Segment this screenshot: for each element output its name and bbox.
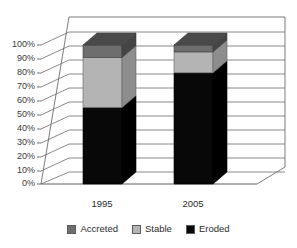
segment-front-face xyxy=(174,73,213,184)
y-tick-label: 60% xyxy=(17,95,35,105)
legend-swatch-icon xyxy=(67,225,76,234)
gridline-30 xyxy=(41,130,285,143)
stacked-column-chart: 100% 90% 80% 70% 60% 50% 40% 30% 20% 10%… xyxy=(0,0,297,248)
gridline-50 xyxy=(41,102,285,115)
back-wall-top-edge xyxy=(41,17,285,184)
y-tick-label: 80% xyxy=(17,67,35,77)
legend-item-stable[interactable]: Stable xyxy=(132,224,172,234)
y-tick-label: 90% xyxy=(17,53,35,63)
x-axis-labels: 1995 2005 xyxy=(91,198,203,209)
segment-front-face xyxy=(83,45,122,58)
y-tick-label: 40% xyxy=(17,123,35,133)
y-axis-labels: 100% 90% 80% 70% 60% 50% 40% 30% 20% 10%… xyxy=(12,39,35,188)
legend-swatch-icon xyxy=(186,225,195,234)
bar-group-1995 xyxy=(83,33,136,184)
bar-segment-eroded[interactable] xyxy=(174,61,227,184)
category-label-2005: 2005 xyxy=(182,198,203,209)
legend-swatch-icon xyxy=(132,225,141,234)
gridline-100 xyxy=(41,32,285,45)
gridline-60 xyxy=(41,88,285,101)
gridline-80 xyxy=(41,60,285,73)
y-tick-label: 0% xyxy=(22,178,35,188)
segment-side-face xyxy=(122,96,136,184)
gridline-90 xyxy=(41,46,285,59)
y-tick-label: 70% xyxy=(17,81,35,91)
y-tick-label: 50% xyxy=(17,109,35,119)
chart-3d-frame xyxy=(41,17,285,184)
y-tick-label: 10% xyxy=(17,165,35,175)
y-tick-label: 100% xyxy=(12,39,35,49)
segment-front-face xyxy=(174,45,213,52)
legend-item-accreted[interactable]: Accreted xyxy=(67,224,118,234)
gridline-40 xyxy=(41,116,285,129)
legend-label: Eroded xyxy=(199,224,230,234)
gridlines xyxy=(41,32,285,184)
bar-segment-eroded[interactable] xyxy=(83,96,136,184)
bar-group-2005 xyxy=(174,33,227,184)
chart-container: 100% 90% 80% 70% 60% 50% 40% 30% 20% 10%… xyxy=(0,0,297,248)
legend-item-eroded[interactable]: Eroded xyxy=(186,224,230,234)
segment-front-face xyxy=(83,108,122,184)
gridline-70 xyxy=(41,74,285,87)
category-label-1995: 1995 xyxy=(91,198,112,209)
y-tick-label: 20% xyxy=(17,151,35,161)
chart-legend: Accreted Stable Eroded xyxy=(0,224,297,234)
gridline-20 xyxy=(41,144,285,157)
gridline-10 xyxy=(41,158,285,171)
segment-side-face xyxy=(213,61,227,184)
gridline-0 xyxy=(41,172,285,184)
segment-front-face xyxy=(174,52,213,73)
floor-right-edge xyxy=(257,167,285,184)
legend-label: Stable xyxy=(145,224,172,234)
y-tick-label: 30% xyxy=(17,137,35,147)
legend-label: Accreted xyxy=(80,224,118,234)
segment-front-face xyxy=(83,58,122,108)
y-axis-ticks xyxy=(37,45,41,184)
